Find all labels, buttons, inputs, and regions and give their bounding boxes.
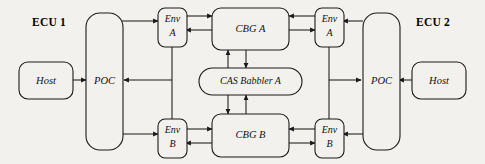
diagram-canvas: Host POC Env A Env B CBG A CBG B [0, 0, 485, 164]
node-cbg-a[interactable]: CBG A [212, 8, 289, 50]
node-env-b-right-label-line1: Env [321, 124, 338, 135]
node-env-a-right-label-line1: Env [321, 13, 338, 24]
node-host-right-label: Host [428, 75, 450, 86]
node-env-b-left[interactable]: Env B [158, 119, 187, 158]
node-cas-babbler-a-label: CAS Babbler A [220, 75, 282, 86]
node-host-right[interactable]: Host [412, 62, 466, 99]
node-env-a-right-label-line2: A [325, 27, 333, 38]
node-env-b-right[interactable]: Env B [315, 119, 344, 158]
node-env-a-left-label-line2: A [168, 27, 176, 38]
label-ecu2: ECU 2 [416, 16, 450, 28]
node-env-b-right-label-line2: B [326, 138, 332, 149]
node-poc-right-label: POC [370, 75, 393, 86]
node-poc-right[interactable]: POC [363, 13, 400, 150]
node-host-left[interactable]: Host [19, 62, 73, 99]
node-poc-left[interactable]: POC [86, 13, 123, 150]
node-env-a-right[interactable]: Env A [315, 8, 344, 47]
node-poc-left-label: POC [93, 75, 116, 86]
block-diagram: Host POC Env A Env B CBG A CBG B [0, 0, 485, 164]
node-env-a-left[interactable]: Env A [158, 8, 187, 47]
node-cbg-a-label: CBG A [236, 23, 266, 34]
node-host-left-label: Host [35, 75, 57, 86]
node-cbg-b-label: CBG B [235, 129, 266, 140]
node-cbg-b[interactable]: CBG B [212, 114, 289, 157]
node-env-a-left-label-line1: Env [164, 13, 181, 24]
node-env-b-left-label-line1: Env [164, 124, 181, 135]
node-env-b-left-label-line2: B [169, 138, 175, 149]
node-cas-babbler-a[interactable]: CAS Babbler A [199, 68, 302, 95]
label-ecu1: ECU 1 [32, 16, 66, 28]
